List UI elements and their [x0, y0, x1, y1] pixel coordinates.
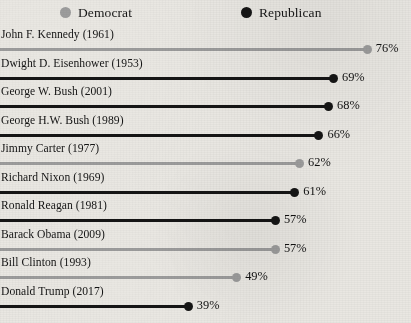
- data-value-label: 39%: [197, 299, 220, 311]
- row-category-label: Richard Nixon (1969): [1, 171, 104, 185]
- chart-row: Richard Nixon (1969)61%: [0, 171, 411, 200]
- legend-item-rep[interactable]: Republican: [241, 6, 321, 20]
- lollipop-dot[interactable]: [363, 45, 372, 54]
- legend-item-dem[interactable]: Democrat: [60, 6, 132, 20]
- chart-row: Jimmy Carter (1977)62%: [0, 142, 411, 171]
- lollipop-dot[interactable]: [184, 302, 193, 311]
- chart-row: John F. Kennedy (1961)76%: [0, 28, 411, 57]
- data-value-label: 57%: [284, 242, 307, 254]
- lollipop-dot[interactable]: [290, 188, 299, 197]
- chart-row: Dwight D. Eisenhower (1953)69%: [0, 57, 411, 86]
- data-value-label: 69%: [342, 71, 365, 83]
- row-category-label: Ronald Reagan (1981): [1, 199, 107, 213]
- data-value-label: 62%: [308, 156, 331, 168]
- lollipop-line: [0, 162, 303, 165]
- chart-row: Bill Clinton (1993)49%: [0, 256, 411, 285]
- chart-row: Ronald Reagan (1981)57%: [0, 199, 411, 228]
- lollipop-line: [0, 77, 337, 80]
- lollipop-dot[interactable]: [271, 216, 280, 225]
- row-category-label: Donald Trump (2017): [1, 285, 104, 299]
- lollipop-dot[interactable]: [232, 273, 241, 282]
- data-value-label: 68%: [337, 99, 360, 111]
- lollipop-line: [0, 276, 240, 279]
- lollipop-line: [0, 48, 371, 51]
- lollipop-line: [0, 134, 322, 137]
- lollipop-line: [0, 305, 192, 308]
- lollipop-line: [0, 191, 298, 194]
- lollipop-line: [0, 248, 279, 251]
- lollipop-line: [0, 219, 279, 222]
- circle-icon: [60, 7, 71, 18]
- row-category-label: George H.W. Bush (1989): [1, 114, 124, 128]
- row-category-label: Bill Clinton (1993): [1, 256, 91, 270]
- circle-icon: [241, 7, 252, 18]
- chart-row: George W. Bush (2001)68%: [0, 85, 411, 114]
- lollipop-line: [0, 105, 332, 108]
- row-category-label: Jimmy Carter (1977): [1, 142, 99, 156]
- legend-label: Republican: [259, 6, 321, 20]
- row-category-label: Barack Obama (2009): [1, 228, 105, 242]
- row-category-label: Dwight D. Eisenhower (1953): [1, 57, 143, 71]
- data-value-label: 76%: [376, 42, 399, 54]
- data-value-label: 61%: [303, 185, 326, 197]
- lollipop-chart: DemocratRepublican John F. Kennedy (1961…: [0, 0, 411, 323]
- chart-rows: John F. Kennedy (1961)76%Dwight D. Eisen…: [0, 28, 411, 313]
- data-value-label: 49%: [245, 270, 268, 282]
- lollipop-dot[interactable]: [314, 131, 323, 140]
- row-category-label: George W. Bush (2001): [1, 85, 112, 99]
- chart-row: Donald Trump (2017)39%: [0, 285, 411, 314]
- chart-row: Barack Obama (2009)57%: [0, 228, 411, 257]
- lollipop-dot[interactable]: [329, 74, 338, 83]
- chart-row: George H.W. Bush (1989)66%: [0, 114, 411, 143]
- lollipop-dot[interactable]: [271, 245, 280, 254]
- data-value-label: 57%: [284, 213, 307, 225]
- row-category-label: John F. Kennedy (1961): [1, 28, 114, 42]
- lollipop-dot[interactable]: [324, 102, 333, 111]
- lollipop-dot[interactable]: [295, 159, 304, 168]
- chart-legend: DemocratRepublican: [0, 0, 411, 28]
- data-value-label: 66%: [327, 128, 350, 140]
- legend-label: Democrat: [78, 6, 132, 20]
